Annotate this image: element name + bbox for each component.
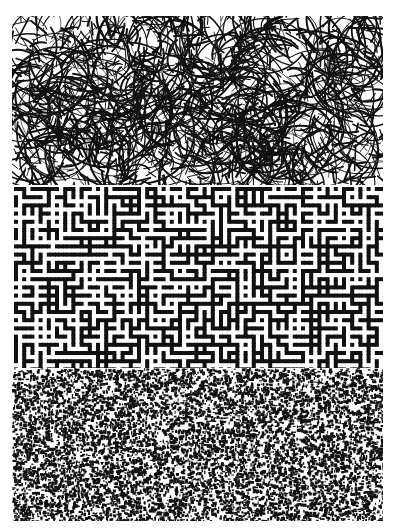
grid-maze-texture [12, 185, 383, 368]
speckle-noise-texture-panel: Fine random speckle / granular noise tex… [12, 368, 383, 521]
fiber-network-texture-panel: Dense random network of dark curved fibe… [12, 16, 383, 185]
fiber-network-texture [12, 16, 383, 185]
speckle-noise-texture [12, 368, 383, 521]
grid-maze-texture-panel: Regular maze-like grid texture of short … [12, 185, 383, 368]
texture-figure: Dense random network of dark curved fibe… [12, 16, 383, 521]
